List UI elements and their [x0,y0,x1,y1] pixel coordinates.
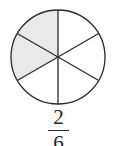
fraction-label: 2 6 [0,106,117,146]
fraction-stack: 2 6 [48,106,69,146]
fraction-denominator: 6 [48,132,69,146]
fraction-numerator: 2 [48,106,69,128]
fraction-circle-figure: 2 6 [0,0,117,146]
